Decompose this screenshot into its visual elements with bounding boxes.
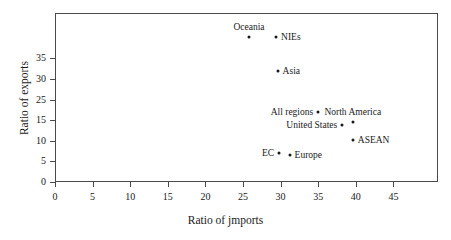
x-tick-mark bbox=[281, 182, 282, 187]
x-tick-mark bbox=[130, 182, 131, 187]
x-tick-mark bbox=[356, 182, 357, 187]
data-point bbox=[276, 69, 279, 72]
x-tick-label: 45 bbox=[378, 192, 408, 202]
data-point-label: Europe bbox=[295, 150, 322, 160]
data-point bbox=[351, 138, 354, 141]
scatter-chart-figure: 051015253035 051015202530354045 OceaniaN… bbox=[0, 0, 451, 240]
data-point-label: All regions bbox=[271, 107, 313, 117]
data-point bbox=[278, 151, 281, 154]
x-tick-label: 20 bbox=[190, 192, 220, 202]
x-tick-label: 40 bbox=[341, 192, 371, 202]
plot-area: OceaniaNIEsAsiaAll regionsNorth AmericaU… bbox=[55, 13, 438, 182]
data-point-label: NIEs bbox=[281, 32, 301, 42]
data-point bbox=[317, 110, 320, 113]
x-tick-mark bbox=[168, 182, 169, 187]
data-point-label: North America bbox=[324, 107, 381, 117]
x-tick-label: 10 bbox=[115, 192, 145, 202]
x-tick-mark bbox=[318, 182, 319, 187]
x-axis-title: Ratio of jmports bbox=[0, 214, 451, 226]
data-point-label: Oceania bbox=[233, 22, 264, 32]
x-tick-mark bbox=[205, 182, 206, 187]
y-tick-label: 0 bbox=[20, 177, 46, 187]
x-tick-mark bbox=[393, 182, 394, 187]
x-tick-mark bbox=[55, 182, 56, 187]
data-point-label: EC bbox=[262, 148, 274, 158]
data-point-label: ASEAN bbox=[358, 135, 390, 145]
x-tick-label: 25 bbox=[228, 192, 258, 202]
x-tick-label: 35 bbox=[303, 192, 333, 202]
y-axis-title: Ratio of exports bbox=[18, 23, 30, 173]
data-point bbox=[288, 153, 291, 156]
x-tick-mark bbox=[243, 182, 244, 187]
x-tick-mark bbox=[93, 182, 94, 187]
data-point bbox=[248, 35, 251, 38]
x-tick-label: 0 bbox=[40, 192, 70, 202]
x-tick-label: 15 bbox=[153, 192, 183, 202]
data-point bbox=[341, 124, 344, 127]
data-point-label: Asia bbox=[283, 66, 300, 76]
x-tick-label: 5 bbox=[78, 192, 108, 202]
data-point bbox=[351, 121, 354, 124]
data-point bbox=[275, 35, 278, 38]
data-point-label: United States bbox=[286, 120, 337, 130]
x-tick-label: 30 bbox=[266, 192, 296, 202]
